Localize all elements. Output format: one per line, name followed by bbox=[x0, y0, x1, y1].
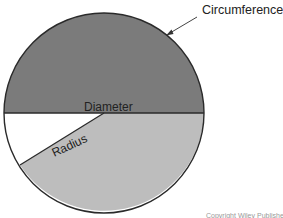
circumference-pointer bbox=[170, 17, 197, 33]
circumference-label: Circumference bbox=[202, 4, 283, 17]
circle-diagram-graphic bbox=[0, 0, 283, 218]
arrowhead-icon bbox=[166, 30, 174, 36]
credit-text: Copyright Wiley Publisher bbox=[206, 212, 283, 218]
circle-diagram: Circumference Diameter Radius Copyright … bbox=[0, 0, 283, 218]
diameter-label: Diameter bbox=[84, 101, 133, 113]
upper-semicircle bbox=[4, 13, 204, 113]
